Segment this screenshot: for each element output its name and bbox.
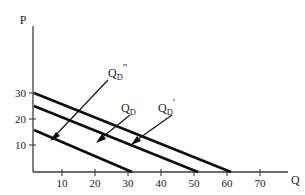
original-demand — [34, 106, 198, 172]
curve-label-original-sub: D — [130, 107, 136, 117]
shifted-in-demand — [34, 130, 132, 172]
curve-label-shifted-out-prime: ′ — [173, 96, 175, 108]
curve-label-original-base: Q — [121, 101, 130, 115]
curve-label-shifted-in-prime: ″ — [123, 61, 128, 73]
chart-canvas: P Q 30 20 10 10 20 30 40 50 60 70 — [0, 0, 305, 195]
curve-label-original: QD — [121, 101, 136, 117]
x-tick-label-70: 70 — [255, 177, 267, 189]
y-tick-label-20: 20 — [15, 113, 27, 125]
x-axis-label: Q — [291, 173, 300, 187]
y-axis-label: P — [20, 13, 27, 27]
curve-label-shifted-in-base: Q — [108, 66, 117, 80]
curve-label-shifted-out: QD′ — [158, 96, 175, 117]
curve-label-shifted-out-sub: D — [167, 107, 173, 117]
shifted-out-demand — [34, 93, 231, 172]
y-tick-label-30: 30 — [15, 87, 27, 99]
y-tick-label-10: 10 — [15, 139, 27, 151]
x-tick-label-20: 20 — [90, 177, 102, 189]
x-tick-label-40: 40 — [156, 177, 168, 189]
x-tick-label-30: 30 — [123, 177, 135, 189]
leader-line-shifted-in — [53, 80, 108, 138]
leader-arrowhead-shifted-out — [131, 136, 141, 145]
x-tick-label-50: 50 — [189, 177, 201, 189]
leader-line-shifted-out — [134, 115, 172, 142]
x-tick-label-60: 60 — [222, 177, 234, 189]
demand-shift-figure: P Q 30 20 10 10 20 30 40 50 60 70 — [0, 0, 305, 195]
curve-label-shifted-out-base: Q — [158, 101, 167, 115]
curve-label-shifted-in-sub: D — [117, 72, 123, 82]
curve-label-shifted-in: QD″ — [108, 61, 127, 82]
x-tick-label-10: 10 — [57, 177, 69, 189]
